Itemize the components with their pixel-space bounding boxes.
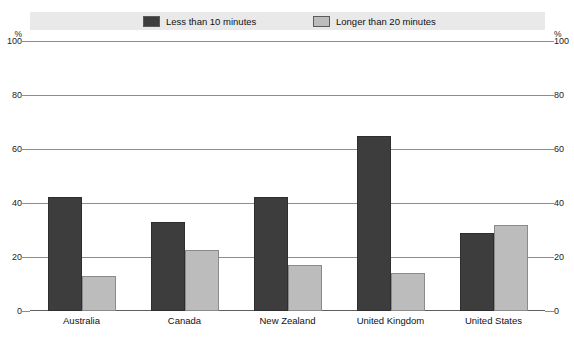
y-tick-mark [545, 41, 554, 42]
bar-united-kingdom-series-1 [391, 273, 425, 311]
x-axis-label-united-kingdom: United Kingdom [339, 315, 442, 326]
y-tick-mark [21, 203, 30, 204]
bar-united-kingdom-series-0 [357, 136, 391, 311]
y-tick-label-100: 100 [554, 37, 569, 46]
x-axis-label-united-states: United States [442, 315, 545, 326]
bar-group [254, 41, 322, 311]
legend-item-less-than-10-minutes: Less than 10 minutes [143, 12, 256, 30]
bar-australia-series-1 [82, 276, 116, 311]
bar-group [48, 41, 116, 311]
y-tick-label-20: 20 [554, 253, 564, 262]
y-axis-right: % 100 80 60 40 20 0 [545, 41, 574, 311]
bar-canada-series-0 [151, 222, 185, 311]
bar-canada-series-1 [185, 250, 219, 311]
y-tick-mark [545, 149, 554, 150]
y-tick-mark [21, 95, 30, 96]
y-axis-left: % 100 80 60 40 20 0 [0, 41, 30, 311]
legend-background [30, 12, 545, 30]
x-axis-label-new-zealand: New Zealand [236, 315, 339, 326]
bar-united-states-series-0 [460, 233, 494, 311]
bar-groups [30, 41, 545, 311]
legend-swatch-icon [143, 16, 160, 27]
y-tick-label-80: 80 [554, 91, 564, 100]
bar-chart: Less than 10 minutes Longer than 20 minu… [0, 0, 574, 343]
bar-group [151, 41, 219, 311]
legend-item-longer-than-20-minutes: Longer than 20 minutes [313, 12, 436, 30]
bar-new-zealand-series-0 [254, 197, 288, 311]
y-tick-label-100: 100 [7, 37, 22, 46]
y-tick-mark [545, 203, 554, 204]
legend-swatch-icon [313, 16, 330, 27]
y-tick-mark [21, 257, 30, 258]
x-axis-label-australia: Australia [30, 315, 133, 326]
bar-group [460, 41, 528, 311]
legend-label: Less than 10 minutes [166, 16, 256, 27]
x-axis-label-canada: Canada [133, 315, 236, 326]
y-tick-label-40: 40 [554, 199, 564, 208]
y-tick-mark [21, 311, 30, 312]
y-tick-label-0: 0 [554, 307, 559, 316]
y-tick-mark [21, 149, 30, 150]
bar-group [357, 41, 425, 311]
y-tick-mark [21, 41, 30, 42]
plot-area [30, 41, 545, 311]
bar-new-zealand-series-1 [288, 265, 322, 311]
y-tick-mark [545, 257, 554, 258]
y-tick-label-60: 60 [554, 145, 564, 154]
legend-label: Longer than 20 minutes [336, 16, 436, 27]
y-tick-mark [545, 95, 554, 96]
bar-australia-series-0 [48, 197, 82, 311]
bar-united-states-series-1 [494, 225, 528, 311]
y-tick-mark [545, 311, 554, 312]
